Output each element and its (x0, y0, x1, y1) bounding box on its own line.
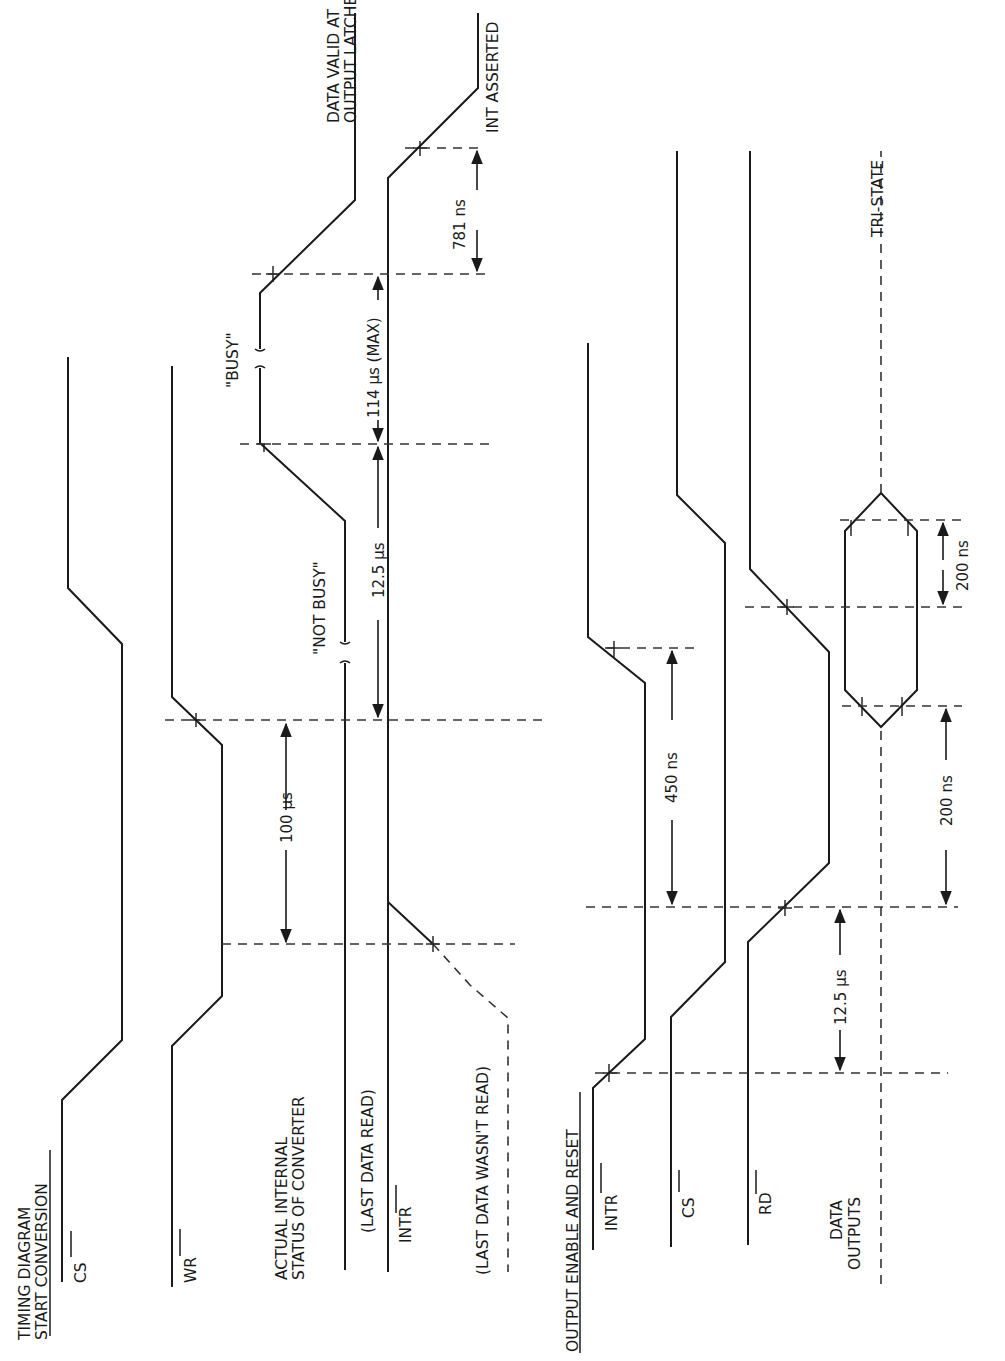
output-intr-signal: INTR (588, 343, 645, 1250)
output-intr-waveform (588, 343, 645, 1250)
timing-12-5us-label: 12.5 µs (370, 542, 388, 598)
output-rd-label: RD (757, 1192, 775, 1215)
cs-waveform (62, 357, 122, 1282)
timing-450ns-label: 450 ns (663, 752, 681, 803)
timing-200ns-a-label: 200 ns (954, 540, 972, 591)
output-cs-label: CS (680, 1197, 698, 1218)
data-outputs-signal: DATA OUTPUTS TRI-STATE (828, 151, 917, 1284)
not-busy-label: "NOT BUSY" (311, 561, 329, 655)
intr-label: INTR (397, 1206, 415, 1243)
wr-waveform (172, 366, 222, 1287)
timing-114us: 114 µs (MAX) (365, 277, 383, 441)
busy-label: "BUSY" (224, 332, 242, 388)
timing-12-5us-output: 12.5 µs (832, 910, 850, 1070)
reference-lines-output (586, 520, 967, 1073)
wr-label: WR (182, 1257, 200, 1283)
timing-200ns-b: 200 ns (938, 709, 956, 904)
timing-12-5us-output-label: 12.5 µs (832, 969, 850, 1025)
output-intr-label: INTR (603, 1194, 621, 1231)
timing-781ns: 781 ns (451, 151, 477, 271)
data-outputs-label-2: OUTPUTS (846, 1197, 864, 1270)
intr-signal: INTR (LAST DATA WASN'T READ) INT ASSERTE… (388, 13, 508, 1275)
timing-200ns-a: 200 ns (943, 523, 972, 604)
int-asserted-label: INT ASSERTED (484, 21, 502, 133)
timing-114us-label: 114 µs (MAX) (365, 317, 383, 418)
status-label-2: STATUS OF CONVERTER (290, 1096, 308, 1280)
timing-12-5us-start: 12.5 µs (370, 447, 388, 717)
output-cs-waveform (671, 151, 725, 1247)
last-data-not-read-label: (LAST DATA WASN'T READ) (474, 1066, 492, 1275)
data-valid-label-2: OUTPUT LATCHES (342, 0, 360, 123)
title-line-1: TIMING DIAGRAM (16, 1207, 34, 1341)
status-waveform-busy (260, 368, 345, 642)
timing-100us: 100 µs (278, 724, 296, 942)
intr-fall (388, 902, 433, 944)
internal-status: ACTUAL INTERNAL STATUS OF CONVERTER "NOT… (224, 0, 377, 1280)
timing-200ns-b-label: 200 ns (938, 775, 956, 826)
output-rd-signal: RD (748, 151, 829, 1245)
wr-signal: WR (172, 366, 222, 1287)
data-valid-label-1: DATA VALID AT (325, 8, 343, 123)
status-break-mark-1 (340, 642, 350, 663)
timing-diagram: TIMING DIAGRAM START CONVERSION CS WR AC… (0, 0, 1005, 1361)
data-valid-window (845, 493, 917, 727)
output-enable-section: OUTPUT ENABLE AND RESET INTR CS RD (564, 151, 972, 1353)
output-rd-waveform (748, 151, 829, 1245)
cs-label: CS (72, 1262, 90, 1283)
data-outputs-label-1: DATA (828, 1200, 846, 1240)
title-line-2: START CONVERSION (33, 1183, 51, 1340)
timing-100us-label: 100 µs (278, 792, 296, 843)
status-break-mark-2 (255, 349, 265, 368)
last-data-read-label: (LAST DATA READ) (359, 1089, 377, 1233)
timing-781ns-label: 781 ns (451, 199, 469, 250)
title-start-conversion: TIMING DIAGRAM START CONVERSION (16, 1150, 51, 1341)
output-cs-signal: CS (671, 151, 725, 1247)
status-label-1: ACTUAL INTERNAL (273, 1136, 291, 1280)
start-conversion-section: TIMING DIAGRAM START CONVERSION CS WR AC… (16, 0, 545, 1341)
tri-state-label: TRI-STATE (869, 160, 887, 238)
timing-450ns: 450 ns (663, 651, 681, 904)
intr-dashed-path (433, 944, 508, 1272)
cs-signal: CS (62, 357, 122, 1283)
